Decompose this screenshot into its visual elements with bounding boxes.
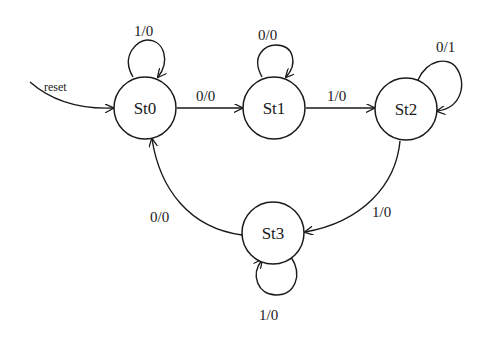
transition-st0-st1: 0/0	[177, 88, 242, 108]
transition-st2-st3: 1/0	[305, 141, 400, 232]
state-diagram: reset 1/0 0/0 0/0 1/0 0/1 1/0 1/0 0/0	[0, 0, 482, 342]
transition-st3-self: 1/0	[256, 257, 296, 323]
state-st1: St1	[243, 77, 305, 139]
transition-label: 0/0	[258, 27, 277, 43]
state-st3: St3	[242, 202, 304, 264]
transition-label: 1/0	[372, 204, 391, 220]
state-st0: St0	[114, 77, 176, 139]
reset-label: reset	[44, 80, 67, 94]
state-label: St0	[134, 99, 157, 118]
state-label: St2	[395, 100, 418, 119]
transition-label: 0/0	[196, 88, 215, 104]
transition-label: 0/0	[150, 209, 169, 225]
transition-label: 0/1	[436, 39, 455, 55]
transition-st1-st2: 1/0	[306, 88, 374, 108]
transition-st3-st0: 0/0	[150, 139, 242, 235]
transition-label: 1/0	[259, 307, 278, 323]
state-st2: St2	[375, 78, 437, 140]
transition-label: 1/0	[327, 88, 346, 104]
transition-st1-self: 0/0	[258, 27, 293, 77]
state-label: St3	[262, 224, 285, 243]
state-label: St1	[263, 99, 286, 118]
reset-arrow: reset	[30, 80, 113, 108]
transition-st0-self: 1/0	[128, 23, 164, 77]
transition-label: 1/0	[134, 23, 153, 39]
